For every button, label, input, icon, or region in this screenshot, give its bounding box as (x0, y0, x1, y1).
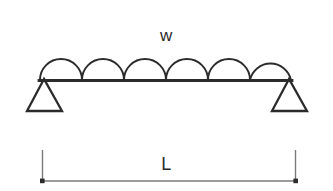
right-support-triangle (272, 79, 307, 111)
load-arc-2 (82, 59, 124, 80)
left-pin-support (27, 79, 62, 111)
load-arc-4 (166, 59, 208, 80)
load-arc-1 (40, 59, 82, 80)
load-arc-3 (124, 59, 166, 80)
load-label: w (0, 26, 333, 46)
left-support-triangle (27, 79, 62, 111)
load-arc-5 (208, 59, 250, 80)
dimension-endpoint-right (293, 179, 298, 184)
dimension-endpoint-left (40, 179, 45, 184)
beam-load-diagram: w L (0, 0, 333, 191)
span-label: L (0, 154, 333, 175)
load-arc-6 (250, 64, 291, 80)
right-pin-support (272, 79, 307, 111)
distributed-load-arcs (40, 59, 291, 80)
